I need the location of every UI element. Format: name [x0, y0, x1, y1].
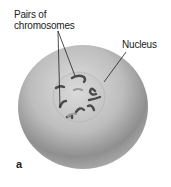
nucleus-label: Nucleus	[122, 39, 157, 50]
chromosomes-label-line1: Pairs of	[14, 9, 46, 20]
chromosomes-label-line2: chromosomes	[14, 20, 75, 31]
panel-letter: a	[16, 158, 22, 170]
